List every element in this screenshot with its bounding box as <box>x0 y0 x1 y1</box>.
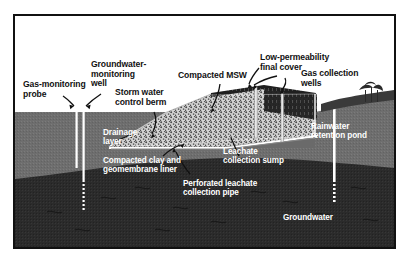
gas-monitoring-probe-pipe <box>76 108 78 168</box>
label-storm-water-control-berm: Storm water control berm <box>115 88 166 107</box>
label-gas-monitoring-probe: Gas-monitoring probe <box>23 80 86 99</box>
diagram-frame: Gas-monitoring probe Groundwater- monito… <box>13 14 396 249</box>
label-rainwater-retention-pond: Rainwater retention pond <box>311 122 367 140</box>
label-drainage-layer: Drainage layer <box>103 128 137 146</box>
label-groundwater: Groundwater <box>283 213 333 222</box>
groundwater-monitoring-well-pipe <box>83 108 85 180</box>
label-groundwater-monitoring-well: Groundwater- monitoring well <box>91 60 146 89</box>
label-compacted-clay-liner: Compacted clay and geomembrane liner <box>103 156 181 174</box>
gas-collection-well-2 <box>281 92 284 142</box>
diagram-canvas: Gas-monitoring probe Groundwater- monito… <box>0 0 410 269</box>
label-gas-collection-wells: Gas collection wells <box>301 69 358 88</box>
label-perforated-leachate-pipe: Perforated leachate collection pipe <box>183 179 257 197</box>
gas-collection-well-1 <box>255 86 258 138</box>
label-compacted-msw: Compacted MSW <box>178 71 247 81</box>
label-leachate-collection-sump: Leachate collection sump <box>223 147 284 165</box>
